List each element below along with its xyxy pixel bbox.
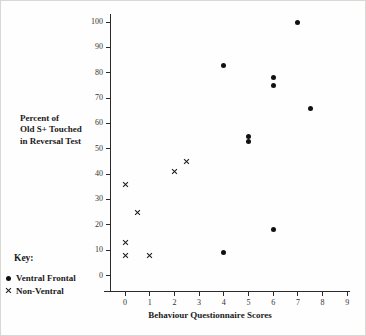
y-tick-label: 40	[75, 169, 103, 178]
scatter-point-ventral-frontal	[295, 20, 300, 25]
y-tick-label: 50	[75, 144, 103, 153]
y-tick	[106, 250, 111, 251]
scatter-point-ventral-frontal	[271, 227, 276, 232]
y-tick	[106, 123, 111, 124]
scatter-point-ventral-frontal	[246, 139, 251, 144]
x-tick-label: 8	[313, 298, 333, 307]
x-tick-label: 5	[239, 298, 259, 307]
y-axis-title: Percent of Old S+ Touched in Reversal Te…	[20, 113, 82, 147]
reversal-test-scatter-figure: Percent of Old S+ Touched in Reversal Te…	[0, 0, 366, 336]
y-tick-label: 30	[75, 194, 103, 203]
legend-entry-label: Ventral Frontal	[16, 273, 76, 283]
y-tick	[106, 98, 111, 99]
x-tick-label: 2	[164, 298, 184, 307]
filled-circle-glyph	[6, 276, 11, 281]
x-tick-label: 4	[214, 298, 234, 307]
scatter-point-ventral-frontal	[246, 134, 251, 139]
y-tick	[106, 72, 111, 73]
x-tick-label: 3	[189, 298, 209, 307]
x-axis-title: Behaviour Questionnaire Scores	[148, 310, 272, 320]
scatter-point-non-ventral	[146, 252, 153, 259]
x-tick-label: 9	[337, 298, 357, 307]
legend-title: Key:	[14, 253, 76, 263]
y-tick	[106, 47, 111, 48]
scatter-point-non-ventral	[183, 158, 190, 165]
scatter-point-ventral-frontal	[271, 75, 276, 80]
y-tick-label: 100	[75, 17, 103, 26]
x-tick	[199, 291, 200, 296]
y-tick	[106, 199, 111, 200]
x-tick	[174, 291, 175, 296]
scatter-point-ventral-frontal	[221, 250, 226, 255]
x-tick-label: 1	[140, 298, 160, 307]
y-tick-label: 80	[75, 68, 103, 77]
scatter-point-non-ventral	[122, 252, 129, 259]
scatter-point-non-ventral	[122, 239, 129, 246]
x-tick	[273, 291, 274, 296]
scatter-point-non-ventral	[171, 168, 178, 175]
x-tick	[248, 291, 249, 296]
legend-entry-ventral-frontal: Ventral Frontal	[4, 272, 76, 285]
y-tick-label: 70	[75, 93, 103, 102]
x-tick	[322, 291, 323, 296]
x-tick	[125, 291, 126, 296]
legend: Key: Ventral FrontalNon-Ventral	[4, 253, 76, 297]
y-tick-label: 20	[75, 220, 103, 229]
y-tick	[106, 174, 111, 175]
y-tick	[106, 275, 111, 276]
x-cross-glyph	[5, 287, 12, 294]
legend-entry-label: Non-Ventral	[16, 286, 64, 296]
y-tick	[106, 22, 111, 23]
x-tick-label: 6	[263, 298, 283, 307]
x-tick-label: 0	[115, 298, 135, 307]
y-tick-label: 10	[75, 245, 103, 254]
x-axis-line	[104, 291, 350, 292]
scatter-point-ventral-frontal	[271, 83, 276, 88]
x-tick	[223, 291, 224, 296]
x-cross-icon	[4, 286, 13, 295]
legend-entry-non-ventral: Non-Ventral	[4, 285, 76, 298]
filled-circle-icon	[4, 274, 13, 283]
x-tick	[149, 291, 150, 296]
x-tick	[347, 291, 348, 296]
scatter-point-ventral-frontal	[308, 106, 313, 111]
x-tick-label: 7	[288, 298, 308, 307]
y-tick	[106, 148, 111, 149]
x-tick	[297, 291, 298, 296]
y-tick-label: 90	[75, 42, 103, 51]
scatter-point-ventral-frontal	[221, 63, 226, 68]
scatter-point-non-ventral	[134, 209, 141, 216]
y-tick-label: 0	[75, 271, 103, 280]
y-tick	[106, 224, 111, 225]
y-tick-label: 60	[75, 118, 103, 127]
scatter-point-non-ventral	[122, 181, 129, 188]
